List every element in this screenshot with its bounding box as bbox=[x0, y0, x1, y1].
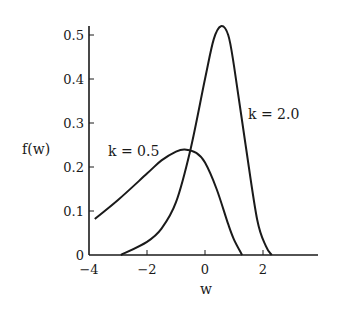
y-tick-label: 0 bbox=[76, 248, 84, 263]
curves bbox=[95, 26, 272, 255]
annotation-k05: k = 0.5 bbox=[108, 143, 159, 159]
x-tick-label: 0 bbox=[201, 262, 209, 277]
y-tick-label: 0.1 bbox=[63, 204, 84, 219]
curve-k-2-0 bbox=[121, 26, 272, 255]
tick-labels: −4−20200.10.20.30.40.5 bbox=[63, 28, 267, 277]
y-axis-label: f(w) bbox=[22, 141, 50, 157]
axes bbox=[89, 26, 318, 255]
x-axis-label: w bbox=[200, 281, 212, 297]
y-tick-label: 0.4 bbox=[63, 72, 84, 87]
y-tick-label: 0.5 bbox=[63, 28, 84, 43]
x-tick-label: −4 bbox=[79, 262, 98, 277]
y-tick-label: 0.2 bbox=[63, 160, 84, 175]
x-tick-label: −2 bbox=[137, 262, 156, 277]
y-tick-label: 0.3 bbox=[63, 116, 84, 131]
chart: −4−20200.10.20.30.40.5 f(w) w k = 0.5 k … bbox=[0, 0, 338, 311]
annotation-k20: k = 2.0 bbox=[248, 106, 299, 122]
x-tick-label: 2 bbox=[259, 262, 267, 277]
curve-k-0-5 bbox=[95, 149, 242, 255]
